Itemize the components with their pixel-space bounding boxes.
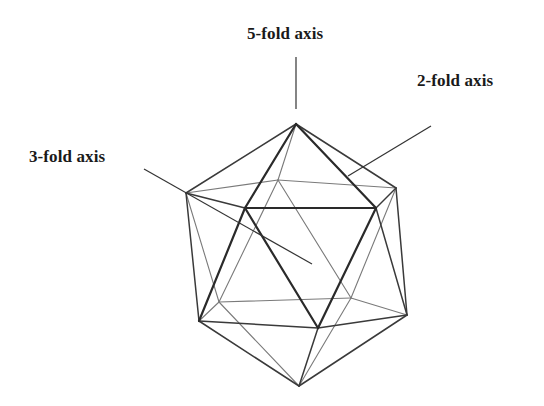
three-fold-axis-label: 3-fold axis <box>29 147 105 167</box>
two-fold-axis-label: 2-fold axis <box>417 71 493 91</box>
icosahedron-wireframe <box>0 0 544 406</box>
axis-lines <box>144 57 431 264</box>
icosahedron-diagram: 5-fold axis 2-fold axis 3-fold axis <box>0 0 544 406</box>
five-fold-axis-label: 5-fold axis <box>247 24 323 44</box>
two-fold-axis-line <box>348 126 431 176</box>
front-edges <box>199 124 376 328</box>
